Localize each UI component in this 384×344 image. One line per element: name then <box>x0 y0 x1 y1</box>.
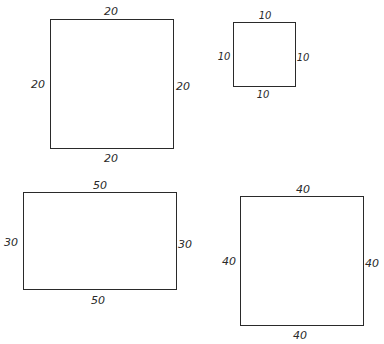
square-10-left-label: 10 <box>218 52 231 62</box>
square-20-top-label: 20 <box>104 6 118 17</box>
rectangle-50x30-bottom-label: 50 <box>91 295 105 306</box>
square-20 <box>50 19 174 149</box>
square-10-bottom-label: 10 <box>257 90 270 100</box>
rectangle-50x30-left-label: 30 <box>4 237 18 248</box>
square-20-left-label: 20 <box>31 79 45 90</box>
square-10-top-label: 10 <box>259 11 272 21</box>
square-10 <box>233 22 296 87</box>
square-40-bottom-label: 40 <box>293 330 307 341</box>
rectangle-50x30-top-label: 50 <box>93 180 107 191</box>
square-40-left-label: 40 <box>222 256 236 267</box>
square-20-right-label: 20 <box>176 81 190 92</box>
rectangle-50x30 <box>23 192 177 290</box>
square-20-bottom-label: 20 <box>104 153 118 164</box>
square-40-top-label: 40 <box>296 184 310 195</box>
square-10-right-label: 10 <box>297 53 310 63</box>
square-40 <box>240 196 364 326</box>
square-40-right-label: 40 <box>365 258 379 269</box>
rectangle-50x30-right-label: 30 <box>178 239 192 250</box>
